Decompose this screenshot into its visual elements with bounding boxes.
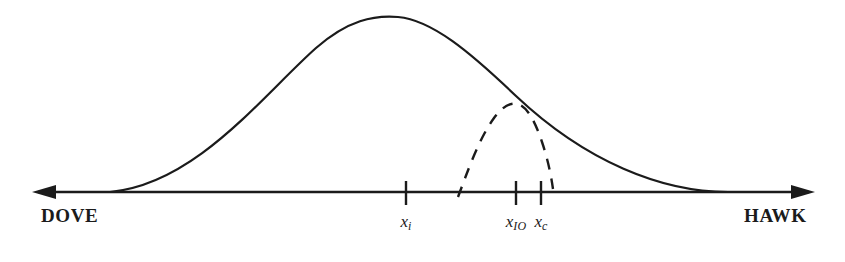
diagram-canvas xyxy=(0,0,845,262)
tick-label-xi-base: x xyxy=(400,212,408,231)
axis-arrow-right-icon xyxy=(791,185,815,199)
tick-label-xc-subscript: c xyxy=(542,219,548,233)
hawk-dove-distribution-diagram: DOVE HAWK xi xIO xc xyxy=(0,0,845,262)
population-distribution-curve xyxy=(110,17,728,192)
axis-label-hawk: HAWK xyxy=(744,205,807,227)
tick-label-xio-base: x xyxy=(506,212,514,231)
tick-label-xio: xIO xyxy=(506,212,527,234)
tick-label-xi: xi xyxy=(400,212,411,234)
tick-label-xio-subscript: IO xyxy=(513,219,526,233)
axis-label-dove: DOVE xyxy=(41,205,98,227)
subset-distribution-curve xyxy=(458,104,553,197)
tick-label-xc-base: x xyxy=(534,212,542,231)
tick-label-xc: xc xyxy=(534,212,547,234)
tick-label-xi-subscript: i xyxy=(408,219,412,233)
axis-arrow-left-icon xyxy=(32,185,56,199)
